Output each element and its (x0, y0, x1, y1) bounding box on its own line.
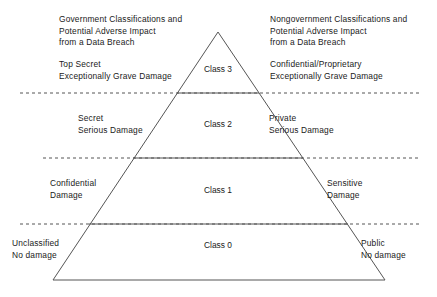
header-nongovernment-line2: Potential Adverse Impact (270, 26, 407, 38)
label-gov-tier1-name: Confidential (50, 178, 96, 190)
label-gov-tier3: Top Secret Exceptionally Grave Damage (59, 59, 172, 82)
label-gov-tier1-impact: Damage (50, 190, 96, 202)
header-nongovernment: Nongovernment Classifications and Potent… (270, 14, 407, 49)
class-label-tier1: Class 1 (158, 185, 278, 195)
header-nongovernment-line1: Nongovernment Classifications and (270, 14, 407, 26)
label-nongov-tier0: Public No damage (361, 238, 406, 261)
label-gov-tier2: Secret Serious Damage (78, 113, 143, 136)
label-gov-tier0-impact: No damage (12, 250, 59, 262)
label-gov-tier2-name: Secret (78, 113, 143, 125)
header-government-line3: from a Data Breach (59, 37, 182, 49)
label-gov-tier1: Confidential Damage (50, 178, 96, 201)
label-nongov-tier3: Confidential/Proprietary Exceptionally G… (270, 59, 383, 82)
header-government: Government Classifications and Potential… (59, 14, 182, 49)
label-nongov-tier1: Sensitive Damage (327, 178, 363, 201)
label-nongov-tier2: Private Serious Damage (269, 113, 334, 136)
label-nongov-tier0-impact: No damage (361, 250, 406, 262)
header-nongovernment-line3: from a Data Breach (270, 37, 407, 49)
label-nongov-tier1-name: Sensitive (327, 178, 363, 190)
label-gov-tier0: Unclassified No damage (12, 238, 59, 261)
label-gov-tier3-name: Top Secret (59, 59, 172, 71)
pyramid-diagram-page: Government Classifications and Potential… (0, 0, 437, 297)
label-nongov-tier1-impact: Damage (327, 190, 363, 202)
label-nongov-tier2-name: Private (269, 113, 334, 125)
label-gov-tier2-impact: Serious Damage (78, 125, 143, 137)
class-label-tier3: Class 3 (158, 64, 278, 74)
label-gov-tier0-name: Unclassified (12, 238, 59, 250)
label-nongov-tier0-name: Public (361, 238, 406, 250)
class-label-tier2: Class 2 (158, 119, 278, 129)
label-gov-tier3-impact: Exceptionally Grave Damage (59, 71, 172, 83)
header-government-line2: Potential Adverse Impact (59, 26, 182, 38)
label-nongov-tier2-impact: Serious Damage (269, 125, 334, 137)
label-nongov-tier3-impact: Exceptionally Grave Damage (270, 71, 383, 83)
label-nongov-tier3-name: Confidential/Proprietary (270, 59, 383, 71)
class-label-tier0: Class 0 (158, 240, 278, 250)
header-government-line1: Government Classifications and (59, 14, 182, 26)
